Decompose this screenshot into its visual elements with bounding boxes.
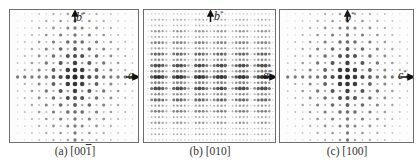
diffraction-panel-c: b* c* <box>279 9 414 143</box>
axis-label-a-star: a* <box>263 68 273 83</box>
caption-a: (a) [001] <box>40 145 110 157</box>
diffraction-spots-c <box>280 10 414 143</box>
axis-label-c-star: c* <box>398 68 407 83</box>
axis-label-b-star: b* <box>345 10 355 25</box>
diffraction-spots-b <box>144 10 276 143</box>
diffraction-panel-b: b* a* <box>143 9 276 143</box>
axis-label-b-star: b* <box>214 9 224 24</box>
diffraction-spots-a <box>10 10 139 143</box>
diffraction-panel-a: b* a <box>9 9 139 143</box>
caption-c: (c) [100] <box>312 145 382 157</box>
caption-b: (b) [010] <box>175 145 245 157</box>
axis-label-a: a <box>128 68 134 83</box>
axis-label-b-star: b* <box>76 10 86 25</box>
